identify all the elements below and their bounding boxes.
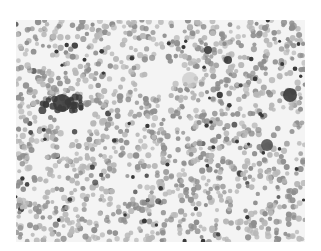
smear-cells xyxy=(16,20,305,242)
blood-smear-micrograph xyxy=(16,20,305,242)
